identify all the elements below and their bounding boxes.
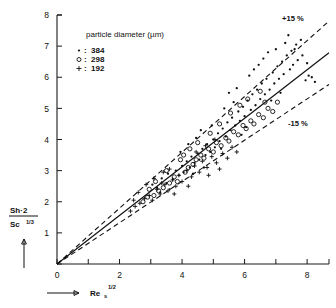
legend-title: particle diameter (µm): [86, 30, 164, 39]
data-point-384: [258, 64, 260, 66]
data-point-298: [188, 147, 192, 151]
data-point-384: [270, 99, 272, 101]
data-point-384: [251, 93, 253, 95]
data-point-192: [186, 184, 190, 188]
series-markers-298: [141, 89, 280, 204]
y-axis-tick-labels: 12345678: [44, 10, 49, 238]
data-point-192: [158, 192, 162, 196]
data-point-298: [232, 130, 236, 134]
x-axis-ticks: [57, 259, 329, 264]
legend-marker-plus-icon: [77, 66, 82, 71]
x-axis-title-subscript: s: [104, 293, 107, 299]
legend-label-192: 192: [91, 64, 105, 73]
data-point-298: [175, 179, 179, 183]
legend-marker-dot-icon: [78, 49, 80, 51]
data-point-384: [254, 104, 256, 106]
data-point-384: [214, 146, 216, 148]
data-point-298: [275, 100, 279, 104]
x-axis-title-base: Re: [90, 289, 101, 298]
data-point-384: [201, 148, 203, 150]
data-point-384: [304, 79, 306, 81]
legend-item-192: : 192: [77, 64, 105, 73]
data-point-192: [217, 167, 221, 171]
data-point-298: [182, 153, 186, 157]
y-axis-title-denominator-exponent: 1/3: [26, 219, 34, 225]
data-point-298: [257, 113, 261, 117]
legend-marker-circle-icon: [77, 58, 81, 62]
data-point-384: [223, 107, 225, 109]
data-point-298: [258, 89, 262, 93]
data-point-384: [262, 57, 264, 59]
annotation-minus-15-percent: -15 %: [288, 119, 308, 128]
y-tick-label: 3: [44, 166, 49, 176]
data-point-384: [192, 173, 194, 175]
data-point-192: [136, 190, 140, 194]
data-point-192: [152, 176, 156, 180]
data-point-384: [195, 137, 197, 139]
x-tick-label: 4: [180, 270, 185, 280]
data-point-298: [261, 116, 265, 120]
data-point-384: [259, 98, 261, 100]
data-point-384: [187, 143, 189, 145]
data-point-384: [306, 62, 308, 64]
data-point-384: [283, 73, 285, 75]
y-tick-label: 1: [44, 228, 49, 238]
data-point-384: [297, 59, 299, 61]
data-point-384: [308, 75, 310, 77]
data-point-192: [214, 161, 218, 165]
x-tick-label: 8: [305, 270, 310, 280]
data-point-298: [167, 181, 171, 185]
data-point-192: [200, 159, 204, 163]
data-point-192: [235, 150, 239, 154]
chart-canvas: 12345678 02468 +15 % -15 % particle diam…: [0, 0, 336, 308]
data-point-384: [239, 120, 241, 122]
data-point-384: [268, 89, 270, 91]
data-point-192: [205, 165, 209, 169]
data-point-384: [234, 124, 236, 126]
data-point-192: [131, 198, 135, 202]
x-tick-label: 2: [117, 270, 122, 280]
data-point-384: [275, 48, 277, 50]
y-axis-title-denominator: Sc: [10, 220, 20, 229]
y-tick-label: 5: [44, 104, 49, 114]
data-point-384: [301, 54, 303, 56]
data-point-384: [237, 110, 239, 112]
y-tick-label: 4: [44, 135, 49, 145]
data-point-298: [211, 150, 215, 154]
data-point-298: [228, 111, 232, 115]
data-point-384: [278, 78, 280, 80]
data-point-192: [189, 175, 193, 179]
data-point-298: [236, 133, 240, 137]
data-point-192: [174, 184, 178, 188]
data-point-298: [271, 109, 275, 113]
data-point-192: [128, 209, 132, 213]
x-axis-title-exponent: 1/2: [108, 284, 116, 290]
data-point-298: [227, 139, 231, 143]
data-point-384: [286, 54, 288, 56]
data-point-384: [179, 151, 181, 153]
data-point-298: [178, 158, 182, 162]
data-point-384: [292, 64, 294, 66]
data-point-298: [196, 141, 200, 145]
y-tick-label: 2: [44, 197, 49, 207]
data-point-384: [264, 93, 266, 95]
data-point-384: [272, 71, 274, 73]
data-point-384: [290, 50, 292, 52]
data-point-384: [228, 92, 230, 94]
series-markers-384: [151, 34, 316, 193]
y-axis-title: Sh·2 Sc 1/3: [9, 206, 38, 229]
data-point-384: [181, 165, 183, 167]
scatter-chart-figure: 12345678 02468 +15 % -15 % particle diam…: [0, 0, 336, 308]
data-point-298: [252, 122, 256, 126]
legend-separator-298: :: [84, 55, 87, 64]
data-point-298: [217, 122, 221, 126]
data-point-298: [147, 187, 151, 191]
y-tick-label: 7: [44, 41, 49, 51]
x-axis-title: Re s 1/2: [47, 284, 116, 299]
data-point-298: [238, 103, 242, 107]
reference-line-parity-fit: [57, 53, 329, 264]
y-axis-ticks: [57, 15, 62, 264]
annotation-plus-15-percent: +15 %: [282, 14, 304, 23]
data-point-384: [265, 78, 267, 80]
data-point-384: [289, 68, 291, 70]
